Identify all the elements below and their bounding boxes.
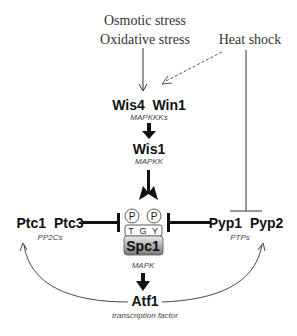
- fork-shaft: [147, 170, 150, 190]
- heat-dashed-arrow: [164, 52, 222, 82]
- stimulus-heat-shock: Heat shock: [219, 32, 282, 47]
- phospho-label-1: P: [129, 211, 136, 222]
- diagram-svg: Osmotic stress Oxidative stress Heat sho…: [0, 0, 297, 336]
- node-pyp1-pyp2: Pyp1 Pyp2: [209, 215, 284, 231]
- feedback-ptc-arrowhead-icon: [20, 243, 27, 251]
- label-mapkk: MAPKK: [135, 157, 164, 166]
- node-atf1: Atf1: [131, 293, 158, 309]
- spc1-atf1-arrowhead-icon: [136, 281, 150, 291]
- pyp-inhibition-bar: [167, 213, 170, 232]
- feedback-curve-pyp: [162, 245, 262, 302]
- motif-g: G: [139, 226, 146, 236]
- node-spc1: Spc1: [126, 238, 160, 254]
- stimulus-osmotic: Osmotic stress: [104, 13, 186, 28]
- arrowhead-icon: [142, 131, 156, 139]
- motif-t: T: [128, 226, 134, 236]
- fork-arrowhead-icon: [139, 186, 158, 200]
- pathway-diagram: Osmotic stress Oxidative stress Heat sho…: [0, 0, 297, 336]
- node-ptc1-ptc3: Ptc1 Ptc3: [17, 215, 84, 231]
- feedback-curve-ptc: [24, 245, 128, 302]
- label-mapk: MAPK: [132, 261, 155, 270]
- node-wis1: Wis1: [133, 141, 166, 157]
- label-ptps: PTPs: [230, 233, 250, 242]
- label-mapkkks: MAPKKKs: [130, 113, 167, 122]
- ptc-inhibition-line: [82, 221, 118, 224]
- label-transcription-factor: transcription factor: [112, 311, 178, 320]
- pyp-inhibition-line: [170, 221, 210, 224]
- stimulus-oxidative: Oxidative stress: [100, 32, 190, 47]
- label-pp2cs: PP2Cs: [38, 233, 63, 242]
- phospho-label-2: P: [151, 211, 158, 222]
- node-wis4-win1: Wis4 Win1: [112, 97, 186, 113]
- motif-y: Y: [152, 226, 158, 236]
- ptc-inhibition-bar: [117, 213, 120, 232]
